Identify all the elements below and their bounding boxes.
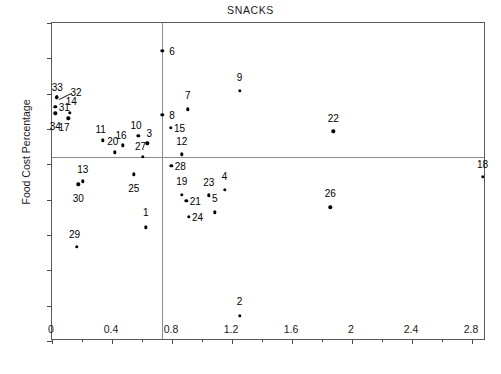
data-point bbox=[137, 134, 140, 137]
data-point-label: 28 bbox=[175, 160, 186, 171]
horizontal-reference-line bbox=[52, 157, 484, 158]
y-tick bbox=[47, 200, 52, 201]
x-tick-label: 2.8 bbox=[451, 323, 491, 335]
x-tick bbox=[472, 339, 473, 344]
data-point bbox=[113, 151, 116, 154]
data-point bbox=[187, 215, 190, 218]
data-point-label: 19 bbox=[176, 176, 187, 187]
chart-title: SNACKS bbox=[0, 4, 501, 16]
data-point bbox=[146, 141, 149, 144]
data-point bbox=[223, 188, 226, 191]
data-point bbox=[54, 105, 57, 108]
data-point-label: 20 bbox=[107, 136, 118, 147]
data-point-label: 21 bbox=[190, 196, 201, 207]
x-tick-label: 2.4 bbox=[391, 323, 431, 335]
x-minor-tick bbox=[322, 339, 323, 342]
data-point bbox=[170, 164, 173, 167]
data-point-label: 8 bbox=[169, 109, 175, 120]
data-point-label: 4 bbox=[222, 170, 228, 181]
y-tick bbox=[47, 235, 52, 236]
x-tick bbox=[412, 339, 413, 344]
data-point bbox=[185, 199, 188, 202]
data-point-label: 7 bbox=[185, 90, 191, 101]
data-point bbox=[132, 173, 135, 176]
x-minor-tick bbox=[262, 339, 263, 342]
data-point bbox=[77, 182, 80, 185]
y-tick bbox=[47, 306, 52, 307]
data-point bbox=[75, 245, 78, 248]
data-point-label: 24 bbox=[192, 211, 203, 222]
scatter-chart-figure: SNACKS Food Cost Percentage 123456789101… bbox=[0, 0, 501, 374]
data-point bbox=[329, 206, 332, 209]
data-point-label: 12 bbox=[176, 136, 187, 147]
y-tick bbox=[47, 58, 52, 59]
x-minor-tick bbox=[442, 339, 443, 342]
x-minor-tick bbox=[382, 339, 383, 342]
data-point-label: 23 bbox=[203, 177, 214, 188]
x-minor-tick bbox=[82, 339, 83, 342]
data-point-label: 29 bbox=[69, 228, 80, 239]
data-point bbox=[207, 194, 210, 197]
plot-area: 1234567891011121314151617181920212223242… bbox=[51, 22, 485, 340]
data-point bbox=[332, 129, 335, 132]
data-point-label: 6 bbox=[169, 45, 175, 56]
data-point-label: 32 bbox=[70, 86, 81, 97]
data-point-label: 27 bbox=[135, 140, 146, 151]
x-tick-label: 1.2 bbox=[211, 323, 251, 335]
y-tick bbox=[47, 270, 52, 271]
data-point-label: 33 bbox=[52, 81, 63, 92]
data-point bbox=[141, 155, 144, 158]
data-point bbox=[238, 314, 241, 317]
vertical-reference-line bbox=[162, 23, 163, 339]
data-point-label: 26 bbox=[325, 188, 336, 199]
x-tick-label: 0.8 bbox=[151, 323, 191, 335]
data-point-label: 2 bbox=[237, 295, 243, 306]
data-point-label: 11 bbox=[96, 124, 106, 135]
x-tick-label: 2 bbox=[331, 323, 371, 335]
x-tick bbox=[352, 339, 353, 344]
data-point bbox=[101, 139, 104, 142]
data-point bbox=[180, 193, 183, 196]
x-tick bbox=[292, 339, 293, 344]
x-tick bbox=[232, 339, 233, 344]
data-point bbox=[481, 175, 484, 178]
data-point bbox=[161, 49, 164, 52]
data-point-label: 9 bbox=[237, 71, 243, 82]
x-tick bbox=[112, 339, 113, 344]
data-point-label: 25 bbox=[128, 183, 139, 194]
x-tick-label: 0.4 bbox=[91, 323, 131, 335]
data-point bbox=[161, 113, 164, 116]
data-point bbox=[66, 117, 69, 120]
data-point-label: 34 bbox=[50, 121, 61, 132]
x-tick-label: 1.6 bbox=[271, 323, 311, 335]
data-point bbox=[121, 144, 124, 147]
data-point bbox=[144, 226, 147, 229]
data-point-label: 30 bbox=[73, 192, 84, 203]
y-tick bbox=[47, 164, 52, 165]
y-tick bbox=[47, 94, 52, 95]
data-point bbox=[238, 89, 241, 92]
data-point bbox=[81, 180, 84, 183]
x-tick bbox=[172, 339, 173, 344]
x-tick bbox=[52, 339, 53, 344]
data-point-label: 18 bbox=[477, 158, 488, 169]
y-axis-label: Food Cost Percentage bbox=[20, 52, 32, 252]
data-point-label: 10 bbox=[130, 119, 141, 130]
data-point-label: 15 bbox=[174, 122, 185, 133]
data-point bbox=[169, 126, 172, 129]
y-tick bbox=[47, 23, 52, 24]
data-point-label: 13 bbox=[77, 163, 88, 174]
data-point-label: 1 bbox=[143, 207, 149, 218]
x-minor-tick bbox=[142, 339, 143, 342]
data-point-label: 31 bbox=[59, 102, 70, 113]
data-point bbox=[186, 108, 189, 111]
data-point bbox=[54, 112, 57, 115]
data-point-label: 5 bbox=[212, 193, 218, 204]
data-point bbox=[55, 95, 58, 98]
data-point-label: 22 bbox=[328, 112, 339, 123]
data-point bbox=[213, 211, 216, 214]
x-tick-label: 0 bbox=[31, 323, 71, 335]
data-point-label: 3 bbox=[146, 127, 152, 138]
x-minor-tick bbox=[202, 339, 203, 342]
